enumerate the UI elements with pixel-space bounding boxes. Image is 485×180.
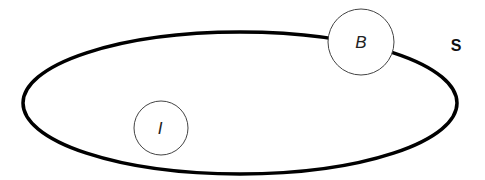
circle-i-label: I [158, 119, 163, 138]
set-diagram: B I S [0, 0, 485, 180]
set-s-label: S [451, 37, 462, 54]
circle-b-label: B [355, 33, 366, 52]
